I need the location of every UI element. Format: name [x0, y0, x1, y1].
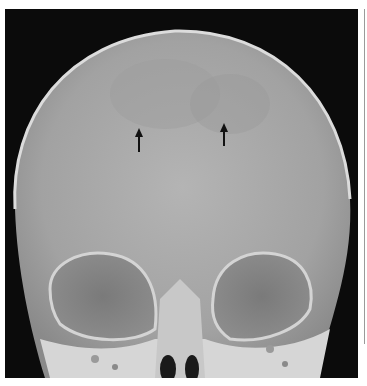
skull-xray-graphic	[5, 9, 358, 378]
xray-image	[5, 9, 358, 378]
page-edge-line	[364, 9, 365, 344]
